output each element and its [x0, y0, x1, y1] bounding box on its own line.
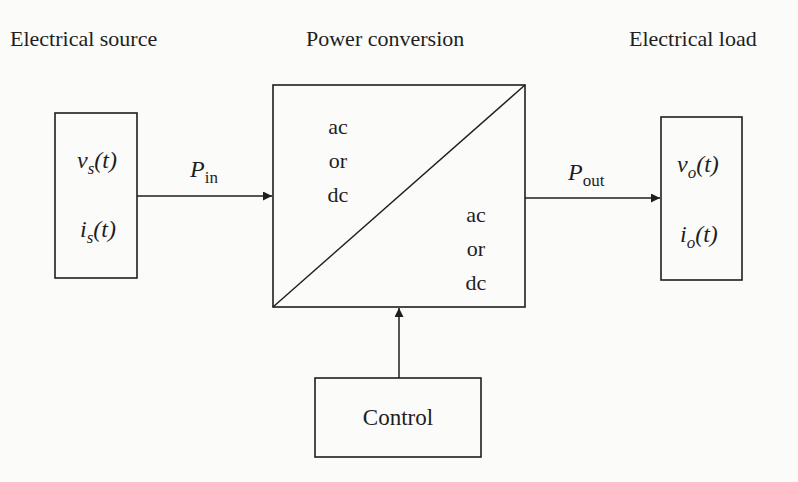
load-box [661, 117, 742, 280]
heading-electrical-source: Electrical source [10, 28, 157, 50]
input-power-label: Pin [190, 157, 218, 181]
source-box [55, 113, 137, 278]
output-type-line: or [456, 232, 496, 266]
output-power-label: Pout [568, 160, 604, 184]
input-type-line: ac [318, 110, 358, 144]
load-current: io(t) [680, 222, 718, 246]
heading-electrical-load: Electrical load [629, 28, 757, 50]
output-type-line: dc [456, 266, 496, 300]
input-type-line: or [318, 144, 358, 178]
source-voltage: vs(t) [77, 148, 117, 172]
input-type-line: dc [318, 178, 358, 212]
converter-input-type: ac or dc [318, 110, 358, 212]
output-type-line: ac [456, 198, 496, 232]
heading-power-conversion: Power conversion [306, 28, 464, 50]
load-voltage: vo(t) [677, 152, 719, 176]
control-label: Control [315, 406, 481, 429]
converter-output-type: ac or dc [456, 198, 496, 300]
source-current: is(t) [80, 217, 116, 241]
